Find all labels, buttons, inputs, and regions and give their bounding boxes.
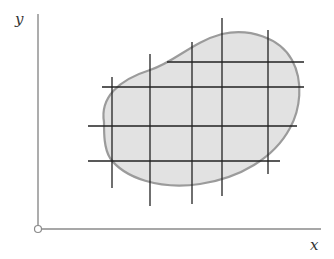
region-grid-diagram: y x (0, 0, 334, 259)
region-shape (103, 32, 299, 185)
origin-marker (35, 226, 42, 233)
x-axis-label: x (310, 236, 319, 254)
y-axis-label: y (14, 10, 24, 28)
